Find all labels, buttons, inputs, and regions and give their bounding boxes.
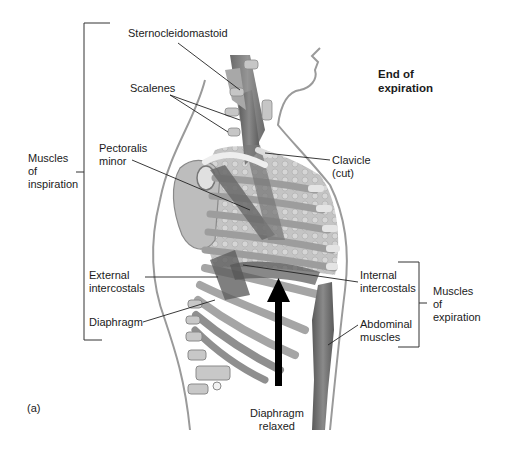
label-diaphragm-relaxed: Diaphragm relaxed — [250, 407, 304, 433]
label-end-of-expiration: End of expiration — [378, 67, 433, 95]
label-external-intercostals: External intercostals — [89, 269, 145, 295]
panel-label: (a) — [27, 402, 40, 415]
label-pectoralis-minor: Pectoralis minor — [99, 142, 147, 168]
label-internal-intercostals: Internal intercostals — [360, 269, 416, 295]
label-scalenes: Scalenes — [130, 82, 175, 95]
label-muscles-of-inspiration: Muscles of inspiration — [28, 152, 78, 191]
label-sternocleidomastoid: Sternocleidomastoid — [128, 27, 228, 40]
diaphragm-relaxed-arrow — [267, 278, 290, 386]
label-clavicle: Clavicle (cut) — [332, 154, 371, 180]
label-abdominal-muscles: Abdominal muscles — [360, 318, 412, 344]
abdominal-muscle — [312, 282, 334, 430]
respiratory-muscles-figure: Sternocleidomastoid Scalenes Pectoralis … — [0, 0, 509, 454]
label-diaphragm: Diaphragm — [89, 316, 143, 329]
label-muscles-of-expiration: Muscles of expiration — [433, 285, 481, 324]
